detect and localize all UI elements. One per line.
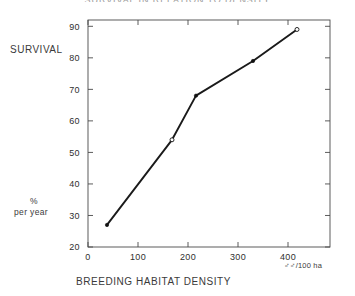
x-tick-label: 100 bbox=[130, 252, 146, 262]
axes-group bbox=[88, 20, 330, 247]
data-point bbox=[170, 138, 174, 142]
data-series-group bbox=[105, 27, 299, 226]
x-tick-label: 300 bbox=[230, 252, 246, 262]
x-tick-label: 200 bbox=[180, 252, 196, 262]
data-point bbox=[251, 59, 254, 62]
x-tick-labels-group: 0100200300400 bbox=[85, 252, 296, 262]
tick-marks-group bbox=[88, 20, 330, 247]
chart-plot: 2030405060708090 0100200300400 bbox=[0, 0, 355, 296]
data-point bbox=[295, 27, 299, 31]
y-tick-label: 20 bbox=[69, 242, 80, 252]
data-point bbox=[105, 223, 108, 226]
y-tick-label: 40 bbox=[69, 179, 80, 189]
survival-line bbox=[107, 29, 297, 224]
y-tick-label: 50 bbox=[69, 148, 80, 158]
figure-root: SURVIVAL IN RELATION TO DENSITY SURVIVAL… bbox=[0, 0, 355, 296]
y-tick-label: 90 bbox=[69, 22, 80, 32]
y-tick-label: 60 bbox=[69, 116, 80, 126]
y-tick-label: 80 bbox=[69, 53, 80, 63]
y-tick-label: 70 bbox=[69, 85, 80, 95]
y-tick-labels-group: 2030405060708090 bbox=[69, 22, 80, 253]
x-tick-label: 0 bbox=[85, 252, 90, 262]
data-point bbox=[194, 94, 197, 97]
x-tick-label: 400 bbox=[280, 252, 296, 262]
y-tick-label: 30 bbox=[69, 211, 80, 221]
